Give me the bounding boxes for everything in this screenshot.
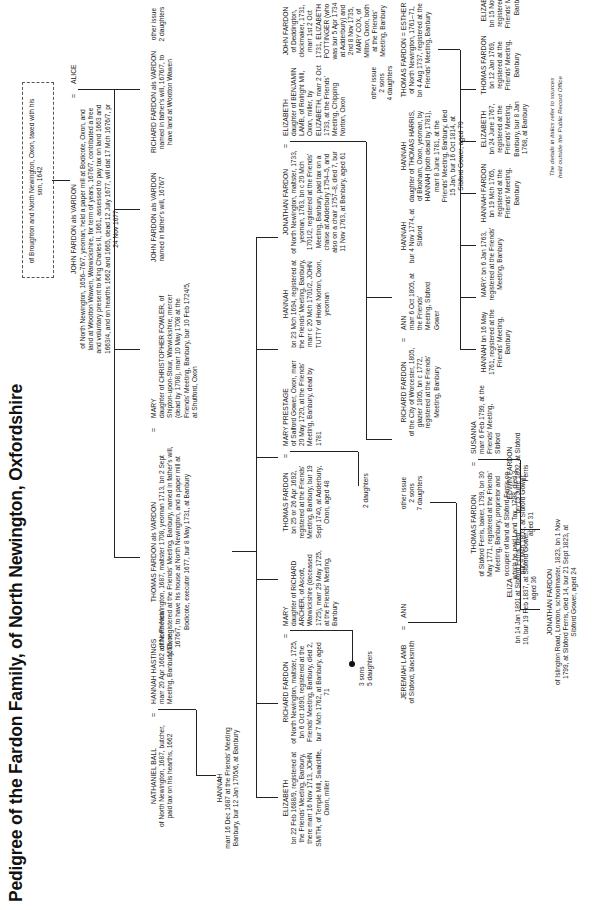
marriage-equals: = — [150, 428, 157, 432]
person-detail: of Islington Road, London, schoolmaster,… — [554, 516, 578, 688]
marriage-equals: = — [282, 454, 289, 458]
page-title: Pedigree of the Fardon Family, of North … — [6, 384, 27, 902]
person-name: JOHN FARDON als VARDON — [70, 104, 78, 354]
person-mary-prestage: MARY PRESTAGE of Salford Gower, Oxon, ma… — [282, 354, 323, 446]
person-richard-fardon-vardon: RICHARD FARDON als VARDON named in fathe… — [150, 50, 174, 154]
person-hannah: HANNAH marr 16 Dec 1687 at the Friends' … — [216, 726, 240, 850]
connector — [290, 630, 352, 631]
connector — [196, 710, 197, 776]
marriage-equals: = — [282, 634, 289, 638]
person-name: ELIZABETH — [282, 748, 290, 848]
footnote-line-1: The details in italics refer to sources — [548, 32, 556, 222]
person-detail: HANNAH bn 16 May 1761, registered at the… — [480, 304, 512, 380]
person-name: ELIZABETH — [282, 64, 290, 136]
person-name: THOMAS FARDON = ESTHER — [400, 2, 408, 98]
person-name: MARY — [150, 282, 158, 418]
marriage-equals: = — [400, 30, 407, 36]
person-detail: of Deddington, clockmaker, 1731, marr 1s… — [290, 2, 387, 60]
connector — [78, 89, 114, 90]
person-mary-1763: MARY: bn 6 Jan 1763, registered at the F… — [480, 226, 504, 302]
marriage-equals: = — [400, 626, 407, 630]
person-hannah-fardon-1765: HANNAH FARDON bn 19 Mch 1765, registered… — [480, 162, 521, 224]
pedigree-chart: Pedigree of the Fardon Family, of North … — [0, 0, 608, 910]
person-mary-archer: MARY daughter of RICHARD ARCHER, of Asco… — [282, 548, 339, 626]
person-detail: of North Newington, maltster, 1725, bn 6… — [290, 640, 330, 744]
connector — [366, 439, 392, 440]
person-name: HANNAH FARDON — [480, 162, 488, 224]
connector — [290, 451, 358, 452]
person-name: RICHARD FARDON — [400, 344, 408, 440]
person-richard-fardon: RICHARD FARDON of North Newington, malts… — [282, 640, 331, 744]
person-detail: of Sibford, blacksmith — [408, 634, 416, 710]
person-mary-fowler: MARY daughter of CHRISTOPHER FOWLER, of … — [150, 282, 199, 418]
person-detail: of Salford Gower, Oxon, marr 20 May 1720… — [290, 354, 322, 446]
person-john-fardon-vardon: JOHN FARDON als VARDON of North Newingto… — [70, 104, 120, 354]
person-alice: ALICE — [70, 24, 78, 84]
person-hannah-1694: HANNAH bn 23 Mch 1694, registered at the… — [282, 258, 331, 350]
person-detail: named in father's will, 1676/7, to have … — [158, 50, 174, 154]
person-detail: of North Newington, 1687, butcher, paid … — [158, 720, 174, 832]
person-name: ANN — [400, 272, 408, 330]
connector — [256, 579, 278, 580]
person-eliza: ELIZA bn 14 Jan 1801 at Sibford Ferris, … — [506, 528, 539, 648]
person-name: JEREMIAH LAMB — [400, 634, 408, 710]
other-issue-gen3: other issue 2 sons 4 daughters — [370, 56, 395, 110]
connector — [358, 452, 359, 486]
person-name: THOMAS FARDON als VARDON — [150, 446, 158, 658]
connector — [460, 141, 476, 142]
person-detail: bn 22 Feb 1688/9, registered at the Frie… — [290, 748, 330, 848]
connector — [460, 297, 476, 298]
person-name: HANNAH — [282, 258, 290, 350]
issue-2daughters-g3: 2 daughters — [362, 452, 370, 508]
person-name-text: THOMAS FARDON — [400, 38, 407, 97]
marriage-equals: = — [70, 94, 77, 98]
person-name: JOHN FARDON — [282, 2, 290, 60]
person-detail: of North Newington, 1687, maltster 1708,… — [158, 446, 190, 658]
person-detail: marr 6 Feb 1799, at the Friends' Meeting… — [478, 384, 502, 454]
connector — [52, 180, 70, 181]
connector — [290, 141, 366, 142]
person-detail: MARY: bn 6 Jan 1763, registered at the F… — [480, 226, 504, 302]
person-nathaniel-ball: NATHANIEL BALL of North Newington, 1687,… — [150, 720, 174, 832]
person-elizabeth-lamb: ELIZABETH daughter of BENJAMIN LAMB, of … — [282, 64, 347, 136]
person-name: JONATHAN FARDON — [546, 516, 554, 688]
person-name: THOMAS FARDON — [282, 460, 290, 544]
person-detail: bn 15 Nov 1771, registered at the Friend… — [488, 0, 520, 32]
other-issue-gen2: other issue 2 daughters — [150, 4, 166, 44]
person-richard-fardon-city: RICHARD FARDON of the City of Worcester,… — [400, 344, 441, 440]
person-name: ALICE — [70, 24, 78, 84]
connector — [114, 89, 140, 90]
marriage-equals: = — [470, 462, 477, 466]
connector — [256, 797, 278, 798]
person-name: HANNAH — [400, 208, 408, 264]
person-elizabeth-smith: ELIZABETH bn 22 Feb 1688/9, registered a… — [282, 748, 331, 848]
person-elizabeth-1767: ELIZABETH bn 24 June 1767, registered at… — [480, 98, 529, 160]
connector — [114, 209, 140, 210]
person-name: THOMAS FARDON — [480, 34, 488, 96]
issue-3sons-5daughters: 3 sons 5 daughters — [358, 626, 374, 686]
person-detail: bn 12 Jan 1769, registered at the Friend… — [488, 34, 520, 96]
person-name: ELIZABETH — [480, 98, 488, 160]
person-detail: of the City of Worcester, 1805, glazier … — [408, 344, 440, 440]
person-name: ELIZA — [506, 528, 514, 648]
person-name: RICHARD FARDON als VARDON — [150, 50, 158, 154]
connector — [430, 502, 456, 503]
person-detail: bn 15 June 1802, at Sibford Ferris — [514, 430, 530, 516]
person-hannah-harris: HANNAH daughter of THOMAS HARRIS, of Blo… — [400, 108, 465, 204]
person-detail: bn 25 or 26 Apr 1692, registered at the … — [290, 460, 330, 544]
connector — [256, 237, 278, 238]
person-detail: bn 19 Mch 1765, registered at the Friend… — [488, 162, 520, 224]
footnote-line-2: held outside the Public Record Office — [556, 32, 564, 222]
person-ann-worcester: ANN marr 6 Oct 1805, at the Friends' Mee… — [400, 272, 441, 330]
person-detail: marr 6 Oct 1805, at the Friends' Meeting… — [408, 272, 440, 330]
person-thomas-fardon-vardon: THOMAS FARDON als VARDON of North Newing… — [150, 446, 191, 658]
person-name: MARY — [282, 548, 290, 626]
person-thomas-fardon-g3: THOMAS FARDON bn 25 or 26 Apr 1692, regi… — [282, 460, 331, 544]
person-detail: named in father's will, 1676/7 — [158, 176, 166, 262]
person-jeremiah-lamb: JEREMIAH LAMB of Sibford, blacksmith — [400, 634, 416, 710]
connector — [196, 775, 216, 776]
marriage-equals: = — [400, 338, 407, 342]
other-issue-gen4: other issue 2 sons 7 daughters — [400, 466, 425, 520]
connector — [456, 503, 457, 623]
connector — [256, 238, 257, 798]
